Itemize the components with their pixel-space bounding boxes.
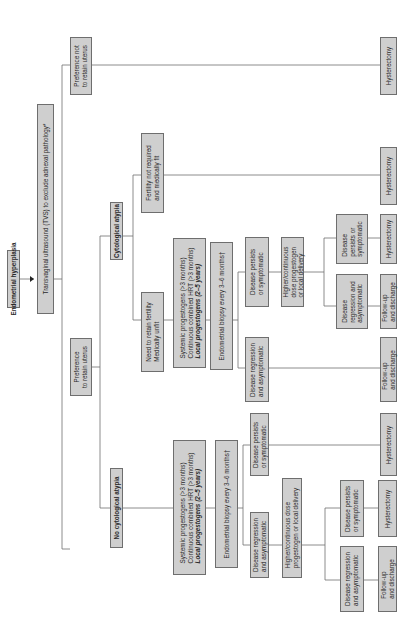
node-no-atypia-hd-followup: Follow-upand discharge — [378, 546, 397, 612]
node-label: Hysterectomy — [385, 220, 393, 259]
node-label: Disease regressionand asymptomatic — [344, 552, 359, 606]
node-atypia-regression: Disease regressionand asymptomatic — [245, 337, 269, 402]
node-no-atypia-biopsy: Endometrial biopsy every 3–6 months† — [215, 440, 238, 568]
node-label: Follow-upand discharge — [380, 559, 395, 599]
node-no-atypia-hd-hysterectomy: Hysterectomy — [378, 480, 397, 537]
node-label: Hysterectomy — [385, 47, 393, 86]
node-atypia-hd-hysterectomy: Hysterectomy — [380, 214, 397, 264]
node-label: Higher/continuous doseprogestogen or loc… — [284, 488, 299, 569]
node-atypia-biopsy: Endometrial biopsy every 3–6 months† — [210, 242, 233, 370]
node-label: Systemic progestogens (>3 months)Continu… — [178, 248, 201, 359]
node-preference-not-retain: Preference notto retain uterus — [70, 37, 92, 95]
node-no-atypia-persists: Disease persistsor symptomatic — [250, 413, 269, 476]
node-label: Preference notto retain uterus — [73, 45, 88, 87]
node-no-atypia-higher-dose: Higher/continuous doseprogestogen or loc… — [282, 478, 302, 578]
node-atypia-hd-regression: Diseaseregression andasymptomatic — [336, 274, 368, 329]
flowchart: Endometrial hyperplasia Transvaginal ult… — [0, 0, 409, 620]
node-no-atypia-regression: Disease regressionand asymptomatic — [250, 512, 269, 578]
node-label: Fertility not requiredand medically fit — [145, 145, 160, 201]
node-atypia-treatment: Systemic progestogens (>3 months)Continu… — [173, 238, 206, 368]
node-fertility-not-required: Fertility not requiredand medically fit — [141, 133, 164, 213]
node-label: Disease persistsor symptomatic — [252, 421, 267, 467]
node-label: Hysterectomy — [385, 425, 393, 464]
node-label: Endometrial biopsy every 3–6 months† — [223, 450, 231, 559]
node-atypia-hd-persists: Diseasepersists orsymptomatic — [336, 214, 368, 264]
node-label: Disease persistsor symptomatic — [249, 249, 264, 295]
node-label: Hysterectomy — [384, 489, 392, 528]
node-cytological-atypia: Cytological atypia — [110, 202, 123, 260]
node-label: Systemic progestogens (>3 months)Continu… — [178, 452, 201, 563]
node-need-retain-fertility: Need to retain fertilityMedically unfit — [141, 292, 164, 372]
node-label: Disease regressionand asymptomatic — [252, 518, 267, 572]
node-label: Preferenceto retain uterus — [73, 346, 88, 388]
node-label: Disease regressionand asymptomatic — [249, 343, 264, 397]
node-label: Disease persistsor symptomatic — [344, 485, 359, 531]
node-hysterectomy-not-retain: Hysterectomy — [380, 37, 397, 95]
node-label: Need to retain fertilityMedically unfit — [145, 302, 160, 362]
node-label: Diseaseregression andasymptomatic — [341, 281, 364, 323]
node-no-atypia-hd-persists: Disease persistsor symptomatic — [340, 480, 364, 537]
node-label: Higher/continuousdose progestogenor loca… — [281, 247, 304, 298]
node-atypia-persists: Disease persistsor symptomatic — [245, 237, 269, 307]
node-label: Follow-upand discharge — [381, 282, 396, 322]
node-tvs: Transvaginal ultrasound (TVS) to exclude… — [37, 104, 54, 314]
node-label: Cytological atypia — [113, 204, 121, 258]
node-no-atypia-hysterectomy: Hysterectomy — [380, 413, 397, 476]
node-label: Follow-upand discharge — [381, 350, 396, 390]
node-label: Diseasepersists orsymptomatic — [341, 221, 364, 256]
node-preference-retain: Preferenceto retain uterus — [70, 338, 92, 396]
node-atypia-followup: Follow-upand discharge — [380, 337, 397, 402]
node-atypia-higher-dose: Higher/continuousdose progestogenor loca… — [281, 237, 304, 307]
node-label: Transvaginal ultrasound (TVS) to exclude… — [42, 124, 50, 295]
node-hysterectomy-atypia: Hysterectomy — [380, 147, 397, 205]
node-label: Endometrial biopsy every 3–6 months† — [218, 252, 226, 361]
node-label: Endometrial hyperplasia — [10, 242, 18, 315]
node-no-atypia-treatment: Systemic progestogens (>3 months)Continu… — [173, 440, 206, 575]
node-no-atypia-hd-regression: Disease regressionand asymptomatic — [340, 546, 364, 612]
node-no-cytological-atypia: No cytological atypia — [110, 468, 123, 548]
node-endometrial-hyperplasia: Endometrial hyperplasia — [7, 250, 20, 308]
node-atypia-hd-followup: Follow-upand discharge — [380, 274, 397, 329]
node-label: Hysterectomy — [385, 157, 393, 196]
node-label: No cytological atypia — [113, 477, 121, 540]
